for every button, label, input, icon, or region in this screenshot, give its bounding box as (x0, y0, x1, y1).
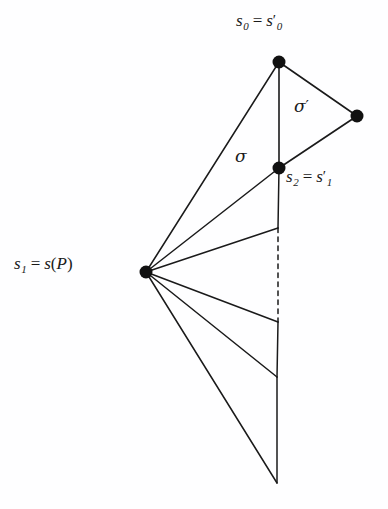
label-s2-base2: s (316, 167, 323, 186)
fan-edge-s1-to-s2 (146, 168, 279, 272)
vertex-s2 (273, 162, 286, 175)
label-s2-subscript2: 1 (326, 176, 332, 188)
label-s1-equals: = (27, 254, 45, 273)
label-sigma-glyph: σ (235, 146, 247, 166)
label-s0-base: s (236, 11, 243, 30)
label-s1-base: s (14, 254, 21, 273)
fan-edge-s1-to-s0 (146, 62, 279, 272)
label-s2-subscript: 2 (293, 176, 299, 188)
fan-edge-s1-to-p4 (146, 272, 278, 322)
label-s1-close-paren: ) (67, 254, 73, 273)
fan-edge-s1-to-bottom (146, 272, 277, 483)
label-sigma: σ (235, 148, 247, 165)
vertex-group (140, 56, 364, 279)
edge-s0-to-right (279, 62, 357, 116)
vertex-s0-prime-right (351, 110, 364, 123)
label-sigma-prime-mark: ′ (306, 97, 309, 115)
edge-lower-vertical-1 (277, 322, 278, 377)
label-s0-subscript: 0 (243, 20, 249, 32)
label-s1: s1=s(P) (14, 255, 73, 272)
edge-s2-to-midpoint-vertical (278, 168, 279, 228)
fan-edge-s1-to-p3 (146, 228, 278, 272)
label-s0-subscript2: 0 (276, 20, 282, 32)
vertex-s0 (273, 56, 286, 69)
diagram-canvas: s0=s′0 σ′ σ s2=s′1 s1=s(P) (0, 0, 388, 509)
label-s1-argument: P (57, 254, 67, 273)
label-s0: s0=s′0 (236, 12, 282, 29)
edge-right-to-s2 (279, 116, 357, 168)
label-s1-function: s (44, 254, 51, 273)
label-s2-equals: = (299, 167, 317, 186)
fan-edge-s1-to-p5 (146, 272, 277, 377)
label-sigma-prime: σ′ (294, 98, 309, 115)
label-s1-subscript: 1 (21, 263, 27, 275)
label-s2-base: s (286, 167, 293, 186)
vertex-s1 (140, 266, 153, 279)
label-s0-equals: = (249, 11, 267, 30)
label-s2: s2=s′1 (286, 168, 332, 185)
label-sigma-prime-glyph: σ (294, 96, 306, 116)
edge-group (146, 62, 357, 483)
label-s0-base2: s (266, 11, 273, 30)
